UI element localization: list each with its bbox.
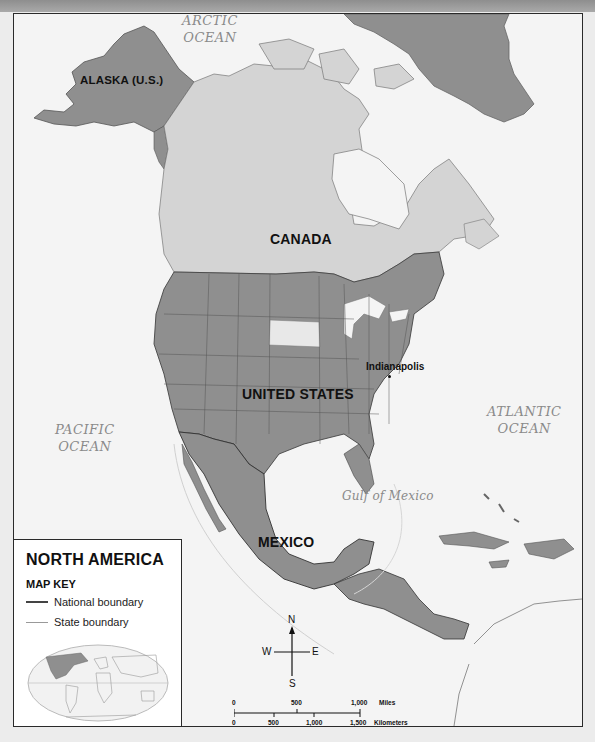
- compass-south: S: [289, 678, 296, 689]
- jamaica: [489, 560, 509, 568]
- highlighted-state: [269, 320, 320, 347]
- greenland-landmass: [344, 14, 534, 122]
- legend-item-state-boundary: State boundary: [26, 616, 129, 628]
- indianapolis-label: Indianapolis: [366, 361, 424, 372]
- gulf-of-mexico-label: Gulf of Mexico: [342, 488, 434, 505]
- canada-landmass: [159, 59, 494, 282]
- state-boundary-line-icon: [26, 622, 48, 623]
- scale-km-1500: 1,500: [350, 719, 366, 726]
- newfoundland: [464, 219, 499, 249]
- legend-label: National boundary: [54, 596, 143, 608]
- compass-north: N: [288, 614, 295, 625]
- scale-miles-1000: 1,000: [351, 699, 367, 706]
- map-legend: NORTH AMERICA MAP KEY National boundary …: [14, 539, 182, 727]
- legend-label: State boundary: [54, 616, 129, 628]
- mexico-label: MEXICO: [258, 534, 314, 550]
- scale-km-0: 0: [232, 719, 236, 726]
- south-america-coast: [474, 599, 582, 644]
- pacific-ocean-label: PACIFICOCEAN: [55, 421, 115, 455]
- scale-km-unit: Kilometers: [374, 719, 408, 726]
- world-locator-globe-icon: [26, 643, 171, 723]
- legend-item-national-boundary: National boundary: [26, 596, 143, 608]
- atlantic-ocean-label: ATLANTICOCEAN: [487, 403, 562, 437]
- page-top-edge: [0, 0, 595, 12]
- north-america-map: ARCTICOCEAN PACIFICOCEAN ATLANTICOCEAN G…: [13, 13, 583, 727]
- scale-km-500: 500: [268, 719, 279, 726]
- compass-rose-icon: N S E W: [262, 614, 322, 694]
- hispaniola: [524, 539, 574, 559]
- indianapolis-marker-icon: [388, 375, 391, 378]
- compass-east: E: [312, 646, 319, 657]
- map-key-heading: MAP KEY: [26, 578, 76, 590]
- compass-west: W: [262, 646, 271, 657]
- scale-km-1000: 1,000: [306, 719, 322, 726]
- arctic-ocean-label: ARCTICOCEAN: [182, 13, 238, 46]
- bahamas: [484, 494, 519, 522]
- national-boundary-line-icon: [26, 601, 48, 603]
- scale-miles-0: 0: [232, 699, 236, 706]
- central-america: [334, 569, 469, 639]
- south-america-coast-2: [454, 664, 469, 726]
- alaska-label: ALASKA (U.S.): [80, 74, 163, 86]
- scale-miles-unit: Miles: [379, 699, 395, 706]
- legend-title: NORTH AMERICA: [26, 551, 164, 569]
- united-states-label: UNITED STATES: [242, 386, 354, 402]
- scale-miles-500: 500: [291, 699, 302, 706]
- canada-label: CANADA: [270, 231, 332, 247]
- cuba: [439, 532, 509, 549]
